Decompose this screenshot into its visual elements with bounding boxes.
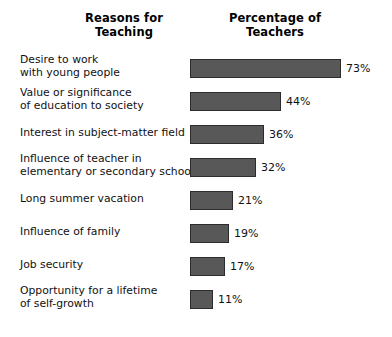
- category-label-line2: elementary or secondary school: [20, 165, 190, 178]
- bar: [190, 158, 256, 177]
- category-label: Influence of family: [20, 225, 190, 238]
- category-label-line2: of self-growth: [20, 297, 190, 310]
- column-header-reasons-line1: Reasons for: [54, 11, 194, 25]
- category-label-line1: Long summer vacation: [20, 192, 190, 205]
- bar-value-label: 11%: [218, 293, 242, 306]
- bar-value-label: 44%: [286, 95, 310, 108]
- bar: [190, 125, 264, 144]
- category-label: Value or significanceof education to soc…: [20, 86, 190, 112]
- category-label: Job security: [20, 258, 190, 271]
- bar: [190, 92, 281, 111]
- chart-header-row: Reasons for Teaching Percentage of Teach…: [0, 11, 392, 51]
- category-label-line2: of education to society: [20, 99, 190, 112]
- chart-rows: Desire to workwith young people73%Value …: [0, 57, 392, 321]
- bar: [190, 59, 341, 78]
- column-header-percentage-line1: Percentage of: [205, 11, 345, 25]
- chart-row: Value or significanceof education to soc…: [0, 90, 392, 123]
- chart-row: Influence of teacher inelementary or sec…: [0, 156, 392, 189]
- category-label-line1: Value or significance: [20, 86, 190, 99]
- bar-value-label: 21%: [238, 194, 262, 207]
- category-label-line1: Influence of family: [20, 225, 190, 238]
- bar: [190, 224, 229, 243]
- column-header-percentage-line2: Teachers: [205, 25, 345, 39]
- category-label-line1: Desire to work: [20, 53, 190, 66]
- bar: [190, 257, 225, 276]
- bar-chart: Reasons for Teaching Percentage of Teach…: [0, 0, 392, 337]
- bar-value-label: 36%: [269, 128, 293, 141]
- column-header-reasons-line2: Teaching: [54, 25, 194, 39]
- column-header-percentage: Percentage of Teachers: [205, 11, 345, 39]
- chart-row: Long summer vacation21%: [0, 189, 392, 222]
- category-label-line1: Interest in subject-matter field: [20, 126, 190, 139]
- category-label: Opportunity for a lifetimeof self-growth: [20, 284, 190, 310]
- column-header-reasons: Reasons for Teaching: [54, 11, 194, 39]
- bar-value-label: 17%: [230, 260, 254, 273]
- bar: [190, 290, 213, 309]
- chart-row: Influence of family19%: [0, 222, 392, 255]
- bar-value-label: 19%: [234, 227, 258, 240]
- category-label: Long summer vacation: [20, 192, 190, 205]
- category-label: Influence of teacher inelementary or sec…: [20, 152, 190, 178]
- bar: [190, 191, 233, 210]
- category-label: Interest in subject-matter field: [20, 126, 190, 139]
- category-label-line1: Influence of teacher in: [20, 152, 190, 165]
- category-label-line1: Opportunity for a lifetime: [20, 284, 190, 297]
- bar-value-label: 32%: [261, 161, 285, 174]
- chart-row: Opportunity for a lifetimeof self-growth…: [0, 288, 392, 321]
- category-label-line2: with young people: [20, 66, 190, 79]
- bar-value-label: 73%: [346, 62, 370, 75]
- category-label: Desire to workwith young people: [20, 53, 190, 79]
- category-label-line1: Job security: [20, 258, 190, 271]
